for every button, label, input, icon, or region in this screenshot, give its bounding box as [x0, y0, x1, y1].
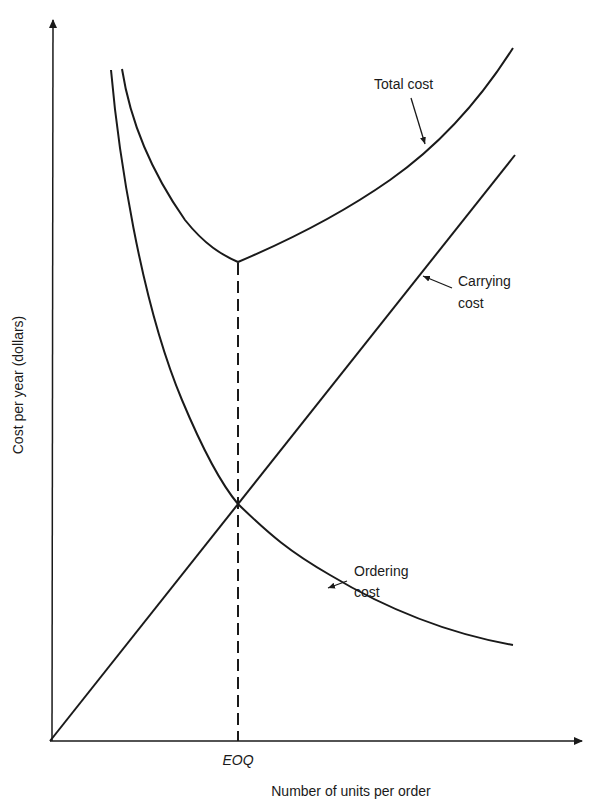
total-cost-label: Total cost	[374, 76, 433, 92]
carrying-cost-arrow	[423, 276, 452, 288]
total-cost-arrow	[411, 98, 425, 144]
y-axis	[52, 20, 53, 741]
ordering-cost-arrow	[328, 581, 347, 588]
carrying-cost-label-line1: Carrying	[458, 273, 511, 289]
carrying-cost-label-line2: cost	[458, 295, 484, 311]
x-axis-label: Number of units per order	[271, 783, 431, 799]
ordering-cost-label-line1: Ordering	[354, 563, 408, 579]
ordering-cost-curve	[111, 70, 513, 645]
y-axis-label: Cost per year (dollars)	[10, 316, 26, 455]
ordering-cost-label-line2: cost	[354, 584, 380, 600]
eoq-chart: Total cost Carrying cost Ordering cost E…	[0, 0, 591, 800]
eoq-tick-label: EOQ	[222, 752, 253, 768]
